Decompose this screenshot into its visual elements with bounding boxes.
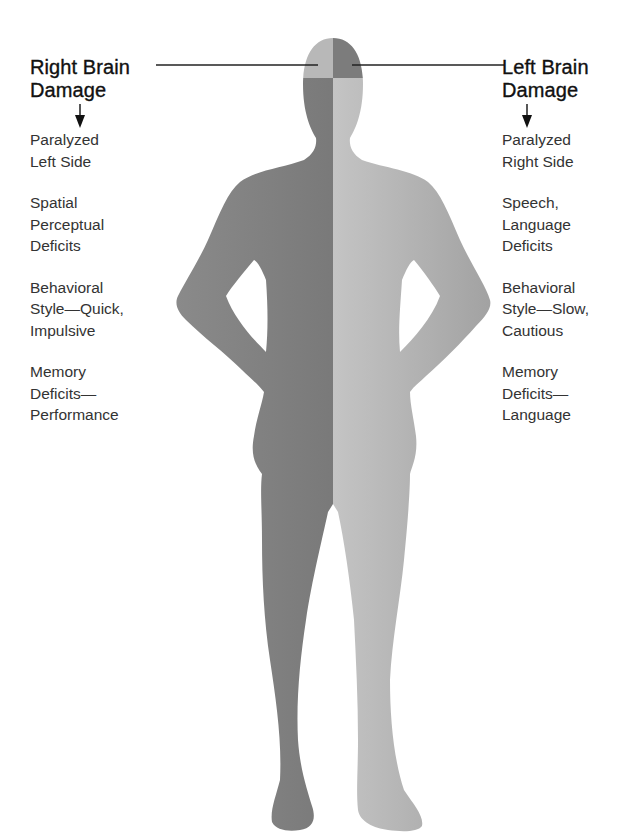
item-line: Cautious [502, 320, 640, 342]
left-brain-damage-heading: Left Brain Damage [502, 56, 640, 102]
list-item: ParalyzedLeft Side [30, 129, 180, 172]
heading-line: Damage [30, 79, 180, 102]
left-brain-damage-panel: Left Brain Damage ParalyzedRight Side Sp… [502, 56, 640, 446]
item-line: Behavioral [502, 277, 640, 299]
item-line: Language [502, 404, 640, 426]
item-line: Spatial [30, 192, 180, 214]
heading-line: Damage [502, 79, 640, 102]
item-line: Perceptual [30, 214, 180, 236]
item-line: Memory [30, 361, 180, 383]
right-brain-damage-panel: Right Brain Damage ParalyzedLeft Side Sp… [30, 56, 180, 446]
item-line: Style—Slow, [502, 298, 640, 320]
item-line: Left Side [30, 151, 180, 173]
item-line: Behavioral [30, 277, 180, 299]
deficit-list: ParalyzedLeft Side SpatialPerceptualDefi… [30, 129, 180, 426]
item-line: Speech, [502, 192, 640, 214]
deficit-list: ParalyzedRight Side Speech,LanguageDefic… [502, 129, 640, 426]
item-line: Style—Quick, [30, 298, 180, 320]
item-line: Right Side [502, 151, 640, 173]
list-item: SpatialPerceptualDeficits [30, 192, 180, 257]
item-line: Deficits— [502, 383, 640, 405]
list-item: MemoryDeficits—Performance [30, 361, 180, 426]
item-line: Memory [502, 361, 640, 383]
item-line: Deficits— [30, 383, 180, 405]
item-line: Language [502, 214, 640, 236]
list-item: Speech,LanguageDeficits [502, 192, 640, 257]
down-arrow-icon [70, 102, 90, 129]
down-arrow-icon [517, 102, 537, 129]
list-item: BehavioralStyle—Slow,Cautious [502, 277, 640, 342]
item-line: Deficits [502, 235, 640, 257]
item-line: Paralyzed [502, 129, 640, 151]
heading-line: Right Brain [30, 56, 180, 79]
body-right-half [176, 38, 490, 831]
right-brain-damage-heading: Right Brain Damage [30, 56, 180, 102]
item-line: Paralyzed [30, 129, 180, 151]
list-item: ParalyzedRight Side [502, 129, 640, 172]
item-line: Performance [30, 404, 180, 426]
list-item: MemoryDeficits—Language [502, 361, 640, 426]
heading-line: Left Brain [502, 56, 640, 79]
item-line: Deficits [30, 235, 180, 257]
item-line: Impulsive [30, 320, 180, 342]
list-item: BehavioralStyle—Quick,Impulsive [30, 277, 180, 342]
